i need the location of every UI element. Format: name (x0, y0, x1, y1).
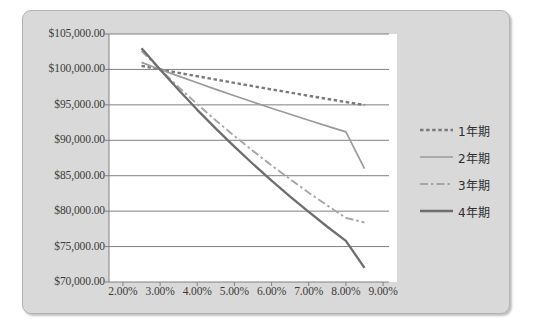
x-axis-tick-label: 7.00% (294, 285, 323, 297)
x-axis-tick-label: 5.00% (220, 285, 249, 297)
legend-item-1[interactable]: 1年期 (419, 119, 509, 141)
legend-item-label: 4年期 (458, 203, 490, 220)
x-axis-labels: 2.00%3.00%4.00%5.00%6.00%7.00%8.00%9.00% (23, 285, 510, 307)
legend-line-swatch-solid-dark (419, 205, 454, 217)
data-series-group (142, 48, 365, 268)
x-axis-tick-label: 2.00% (108, 285, 137, 297)
y-axis-tick-label: $90,000.00 (22, 135, 105, 147)
legend-item-label: 3年期 (458, 176, 490, 193)
legend-item-label: 1年期 (458, 122, 490, 139)
x-axis-tick-label: 4.00% (183, 285, 212, 297)
y-axis-tick-label: $95,000.00 (22, 99, 105, 111)
x-axis-tick-label: 6.00% (257, 285, 286, 297)
legend-item-2[interactable]: 2年期 (419, 146, 509, 168)
legend-item-label: 2年期 (458, 149, 490, 166)
chart-legend: 1年期2年期3年期4年期 (419, 119, 509, 229)
y-axis-tick-label: $80,000.00 (22, 205, 105, 217)
legend-line-swatch-solid-light (419, 151, 454, 163)
y-axis-tick-label: $85,000.00 (22, 170, 105, 182)
legend-item-3[interactable]: 3年期 (419, 173, 509, 195)
x-axis-tick-label: 3.00% (145, 285, 174, 297)
series-line-2 (142, 62, 365, 168)
legend-line-swatch-dash-dot (419, 178, 454, 190)
y-axis-tick-label: $75,000.00 (22, 241, 105, 253)
x-axis-tick-label: 8.00% (331, 285, 360, 297)
series-line-4 (142, 48, 365, 268)
legend-line-swatch-dotted (419, 124, 454, 136)
y-axis-tick-label: $105,000.00 (22, 28, 105, 40)
x-axis-tick-label: 9.00% (368, 285, 397, 297)
chart-frame: $70,000.00$75,000.00$80,000.00$85,000.00… (22, 10, 510, 314)
y-axis-tick-label: $100,000.00 (22, 64, 105, 76)
series-line-3 (142, 51, 365, 222)
y-axis-labels: $70,000.00$75,000.00$80,000.00$85,000.00… (23, 11, 105, 314)
legend-item-4[interactable]: 4年期 (419, 200, 509, 222)
